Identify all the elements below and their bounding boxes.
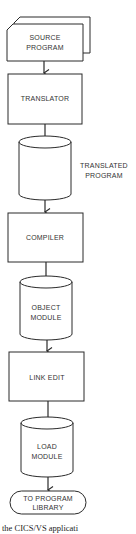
library-label-line2: LIBRARY [32, 504, 63, 511]
object-label-line1: OBJECT [32, 304, 61, 311]
load-label-line1: LOAD [37, 443, 57, 450]
figure-caption: the CICS/VS applicati [2, 523, 79, 533]
library-label-line1: TO PROGRAM [23, 495, 73, 502]
load-module-node: LOAD MODULE [21, 417, 73, 477]
compiler-node: COMPILER [8, 213, 83, 262]
translated-disk-shape [19, 136, 71, 200]
object-module-node: OBJECT MODULE [20, 276, 72, 340]
load-label-line2: MODULE [31, 453, 62, 460]
translated-label-line2: PROGRAM [85, 172, 123, 179]
source-label-line1: SOURCE [29, 34, 60, 41]
link-edit-node: LINK EDIT [9, 352, 84, 401]
translator-label: TRANSLATOR [21, 95, 69, 102]
source-program-node: SOURCE PROGRAM [7, 17, 90, 61]
front-card-shape [7, 24, 83, 61]
compiler-label: COMPILER [26, 234, 64, 241]
object-label-line2: MODULE [30, 314, 61, 321]
flowchart: SOURCE PROGRAM TRANSLATOR TRANSLATED PRO… [0, 0, 136, 534]
link-edit-label: LINK EDIT [29, 374, 65, 381]
translator-node: TRANSLATOR [8, 74, 82, 124]
source-label-line2: PROGRAM [26, 44, 64, 51]
translated-label-line1: TRANSLATED [80, 162, 128, 169]
translated-program-node: TRANSLATED PROGRAM [19, 136, 128, 200]
program-library-node: TO PROGRAM LIBRARY [10, 491, 86, 514]
